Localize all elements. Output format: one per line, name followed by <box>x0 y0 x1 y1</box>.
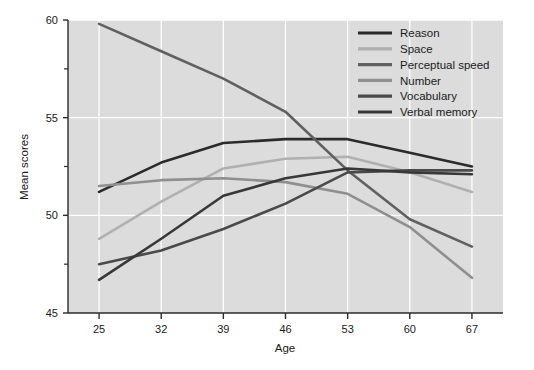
x-tick-label-60: 60 <box>404 323 416 335</box>
legend-label-verbal-memory: Verbal memory <box>400 106 478 118</box>
x-axis-ticks-group: 25323946536067 <box>93 313 478 335</box>
legend-label-space: Space <box>400 43 433 55</box>
x-tick-label-25: 25 <box>93 323 105 335</box>
legend-label-reason: Reason <box>400 27 440 39</box>
x-axis-title: Age <box>275 342 295 354</box>
y-tick-label-50: 50 <box>46 209 58 221</box>
y-axis-title: Mean scores <box>18 134 30 200</box>
y-tick-label-60: 60 <box>46 14 58 26</box>
legend-label-number: Number <box>400 75 441 87</box>
line-chart-svg: 45505560 25323946536067 ReasonSpacePerce… <box>0 0 534 370</box>
x-tick-label-39: 39 <box>217 323 229 335</box>
x-tick-label-46: 46 <box>279 323 291 335</box>
x-tick-label-67: 67 <box>466 323 478 335</box>
y-tick-label-45: 45 <box>46 307 58 319</box>
x-tick-label-32: 32 <box>155 323 167 335</box>
x-tick-label-53: 53 <box>342 323 354 335</box>
chart-figure: 45505560 25323946536067 ReasonSpacePerce… <box>0 0 534 370</box>
y-axis-ticks-group: 45505560 <box>46 14 68 319</box>
legend-label-perceptual-speed: Perceptual speed <box>400 59 490 71</box>
legend-label-vocabulary: Vocabulary <box>400 90 457 102</box>
y-tick-label-55: 55 <box>46 112 58 124</box>
